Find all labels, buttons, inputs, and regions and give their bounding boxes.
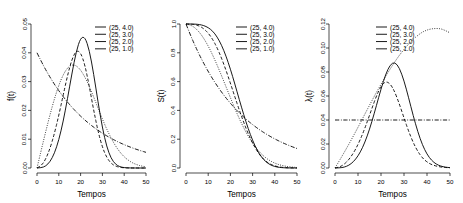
legend-label: (25, 1.0) — [390, 45, 415, 53]
x-axis-title: Tempos — [227, 190, 256, 199]
series-curve — [37, 51, 146, 168]
legend-label: (25, 1.0) — [250, 45, 275, 53]
panel-survival: 01020304050Tempos0.00.20.40.60.81.0S(t)(… — [150, 0, 305, 203]
y-tick-label: 0.02 — [319, 137, 326, 150]
plot-area-ft: 01020304050Tempos0.000.010.020.030.040.0… — [0, 0, 155, 203]
y-tick-label: 0.00 — [21, 161, 28, 174]
plot-area-t: 01020304050Tempos0.000.020.040.060.080.1… — [300, 0, 463, 203]
y-tick-label: 0.06 — [319, 89, 326, 102]
series-curve — [37, 65, 146, 168]
y-tick-label: 0.12 — [319, 17, 326, 30]
y-tick-label: 0.0 — [170, 163, 177, 172]
y-axis: 0.00.20.40.60.81.0 — [170, 19, 181, 172]
x-tick-label: 30 — [249, 178, 256, 185]
panel-density: 01020304050Tempos0.000.010.020.030.040.0… — [0, 0, 155, 203]
series-curve — [37, 37, 146, 168]
x-tick-label: 10 — [355, 178, 362, 185]
y-axis-title: λ(t) — [305, 90, 314, 102]
y-tick-label: 0.01 — [21, 133, 28, 146]
panel-hazard: 01020304050Tempos0.000.020.040.060.080.1… — [300, 0, 463, 203]
y-tick-label: 0.6 — [170, 77, 177, 86]
y-tick-label: 0.04 — [21, 46, 28, 59]
x-tick-label: 0 — [35, 178, 39, 185]
x-axis: 01020304050 — [333, 173, 454, 185]
x-tick-label: 30 — [99, 178, 106, 185]
y-tick-label: 0.08 — [319, 65, 326, 78]
y-tick-label: 1.0 — [170, 19, 177, 28]
legend-label: (25, 1.0) — [109, 45, 134, 53]
x-tick-label: 0 — [333, 178, 337, 185]
y-tick-label: 0.05 — [21, 17, 28, 30]
y-axis-title: S(t) — [157, 89, 166, 102]
x-tick-label: 40 — [271, 178, 278, 185]
x-tick-label: 20 — [77, 178, 84, 185]
legend: (25, 4.0)(25, 3.0)(25, 2.0)(25, 1.0) — [376, 24, 415, 54]
y-tick-label: 0.04 — [319, 113, 326, 126]
x-tick-label: 50 — [143, 178, 150, 185]
y-tick-label: 0.2 — [170, 134, 177, 143]
x-tick-label: 10 — [205, 178, 212, 185]
series-curve — [335, 63, 450, 168]
y-axis-title: f(t) — [7, 91, 16, 101]
y-axis: 0.000.020.040.060.080.100.12 — [319, 17, 330, 174]
series-curve — [186, 24, 297, 168]
legend: (25, 4.0)(25, 3.0)(25, 2.0)(25, 1.0) — [95, 24, 134, 54]
y-axis: 0.000.010.020.030.040.05 — [21, 17, 32, 174]
y-tick-label: 0.8 — [170, 48, 177, 57]
x-tick-label: 40 — [121, 178, 128, 185]
y-tick-label: 0.10 — [319, 41, 326, 54]
x-tick-label: 20 — [378, 178, 385, 185]
series-curve — [186, 24, 297, 149]
series-curve — [186, 24, 297, 168]
x-axis-title: Tempos — [77, 190, 106, 199]
x-axis-title: Tempos — [378, 190, 407, 199]
series-curve — [186, 24, 297, 167]
y-tick-label: 0.03 — [21, 75, 28, 88]
x-tick-label: 0 — [184, 178, 188, 185]
x-tick-label: 50 — [447, 178, 454, 185]
x-tick-label: 20 — [227, 178, 234, 185]
x-axis: 01020304050 — [35, 173, 150, 185]
legend: (25, 4.0)(25, 3.0)(25, 2.0)(25, 1.0) — [236, 24, 275, 54]
x-axis: 01020304050 — [184, 173, 301, 185]
y-tick-label: 0.4 — [170, 106, 177, 115]
y-tick-label: 0.02 — [21, 104, 28, 117]
x-tick-label: 40 — [424, 178, 431, 185]
x-tick-label: 10 — [55, 178, 62, 185]
weibull-figure: 01020304050Tempos0.000.010.020.030.040.0… — [0, 0, 463, 203]
y-tick-label: 0.00 — [319, 161, 326, 174]
x-tick-label: 30 — [401, 178, 408, 185]
plot-area-St: 01020304050Tempos0.00.20.40.60.81.0S(t)(… — [150, 0, 305, 203]
series-curve — [335, 82, 450, 168]
